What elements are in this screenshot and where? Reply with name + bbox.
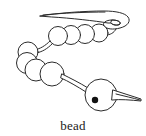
bead-illustration-figure: bead <box>0 0 146 136</box>
thread-lower <box>61 74 88 92</box>
small-beads-left-cluster <box>17 42 65 86</box>
small-bead <box>40 62 64 86</box>
figure-caption: bead <box>0 118 146 133</box>
bead-hole-icon <box>92 97 98 103</box>
bead-needle-drawing <box>0 0 146 136</box>
small-beads-upper-row <box>49 24 109 46</box>
small-bead <box>49 27 68 46</box>
